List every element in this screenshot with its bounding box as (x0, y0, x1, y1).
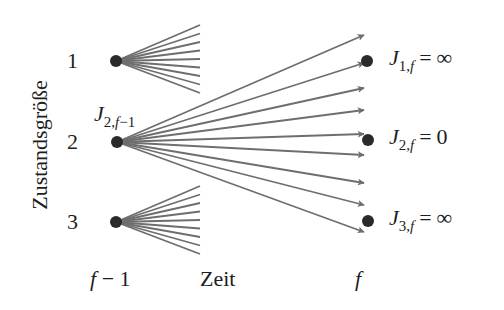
state-node-right-2 (362, 134, 374, 146)
fan-line (116, 34, 200, 62)
y-axis-label: Zustandsgröße (29, 80, 51, 210)
cost-subscript: 2,f−1 (104, 114, 135, 130)
cost-value: ∞ (437, 45, 453, 70)
state-node-right-3 (362, 215, 374, 227)
fan-lines-state-1 (116, 25, 200, 93)
state-label-1: 1 (67, 50, 78, 72)
transition-arrow (117, 142, 364, 205)
stage-label-f-minus-1: f − 1 (90, 268, 131, 290)
fan-lines-state-3 (116, 186, 200, 254)
x-axis-label: Zeit (200, 268, 235, 290)
state-label-3: 3 (67, 211, 78, 233)
cost-label-right-state-3: J3,f=∞ (389, 207, 452, 229)
state-node-left-2 (111, 136, 123, 148)
fan-line (116, 195, 200, 223)
state-node-left-3 (110, 216, 122, 228)
cost-symbol: J (94, 101, 104, 126)
state-node-left-1 (110, 55, 122, 67)
right-state-nodes (361, 55, 374, 227)
left-state-nodes (110, 55, 123, 228)
fan-line (116, 222, 200, 237)
cost-value: ∞ (437, 205, 453, 230)
cost-label-right-state-2: J2,f=0 (389, 126, 448, 148)
cost-label-right-state-1: J1,f=∞ (389, 47, 452, 69)
state-node-right-1 (361, 55, 373, 67)
state-label-2: 2 (67, 131, 78, 153)
cost-value: 0 (437, 124, 448, 149)
cost-label-left-state-2: J2,f−1 (94, 103, 135, 125)
fan-line (116, 61, 200, 76)
stage-label-f: f (355, 268, 361, 290)
transition-arrow (117, 142, 364, 232)
